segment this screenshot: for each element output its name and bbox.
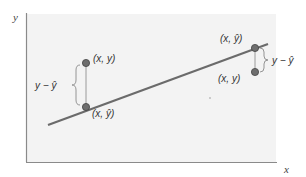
x-axis-label: x <box>283 163 289 175</box>
right-predicted-label: (x, ŷ) <box>220 33 242 44</box>
left-predicted-label: (x, ŷ) <box>92 108 114 119</box>
left-observed-label: (x, y) <box>93 53 115 64</box>
left-residual-label: y − ŷ <box>34 80 57 91</box>
left-predicted-point <box>82 103 89 110</box>
right-observed-label: (x, y) <box>218 73 240 84</box>
right-residual-label: y − ŷ <box>271 55 294 66</box>
residual-diagram: y x (x, y) (x, ŷ) y − ŷ (x, ŷ) (x, y) y … <box>0 0 306 177</box>
right-observed-point <box>251 68 258 75</box>
right-predicted-point <box>251 44 258 51</box>
left-observed-point <box>82 59 89 66</box>
y-axis-label: y <box>12 11 18 23</box>
stray-dot <box>209 97 211 99</box>
